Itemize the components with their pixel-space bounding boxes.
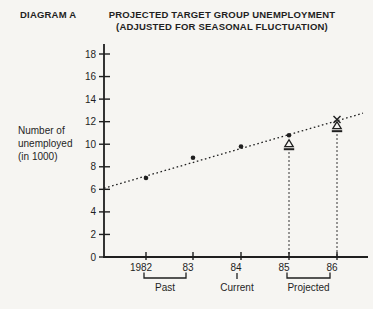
- x-tick-label: 85: [278, 262, 290, 273]
- y-tick-label: 10: [85, 139, 97, 150]
- period-bracket: [144, 273, 186, 279]
- y-tick-label: 4: [90, 206, 96, 217]
- scanned-chart-page: DIAGRAM A PROJECTED TARGET GROUP UNEMPLO…: [0, 0, 373, 309]
- y-tick-label: 14: [85, 94, 97, 105]
- x-tick-label: 84: [230, 262, 242, 273]
- period-bracket: [287, 273, 330, 279]
- x-tick-label: 83: [182, 262, 194, 273]
- data-point-dot: [191, 155, 196, 160]
- x-tick-label: 86: [326, 262, 338, 273]
- y-tick-label: 8: [90, 161, 96, 172]
- y-tick-label: 16: [85, 71, 97, 82]
- y-tick-label: 18: [85, 49, 97, 60]
- data-point-dot: [239, 144, 244, 149]
- data-point-dot: [287, 133, 292, 138]
- y-tick-label: 2: [90, 229, 96, 240]
- x-tick-label: 1982: [130, 262, 153, 273]
- y-tick-label: 12: [85, 116, 97, 127]
- unemployment-chart: 024681012141618198283848586PastCurrentPr…: [0, 0, 373, 309]
- trend-line: [104, 113, 363, 188]
- period-label: Projected: [287, 282, 329, 293]
- y-tick-label: 0: [90, 252, 96, 263]
- period-label: Past: [155, 282, 175, 293]
- data-point-triangle: [285, 140, 293, 147]
- y-tick-label: 6: [90, 184, 96, 195]
- period-label: Current: [220, 282, 254, 293]
- data-point-dot: [144, 176, 149, 181]
